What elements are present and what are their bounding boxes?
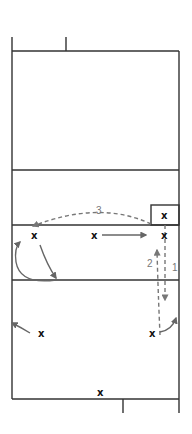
movement-arrows [12,235,176,333]
left-front-loop-arrow [16,242,57,281]
player-setter: x [161,210,168,221]
player-middle-front: x [91,230,98,241]
players: x x x x x x x [31,210,168,398]
right-back-arrow [160,318,176,332]
pass-3-arrow [33,212,151,226]
player-right-back: x [149,328,156,339]
court-lines [12,37,179,413]
player-server: x [97,387,104,398]
pass-1-label: 1 [172,262,178,273]
player-left-front: x [31,230,38,241]
left-front-down-arrow [40,245,56,278]
left-back-arrow [12,323,30,333]
court-diagram: x x x x x x x 3 2 1 [0,0,192,434]
player-right-front: x [161,230,168,241]
player-left-back: x [38,328,45,339]
pass-2-label: 2 [147,258,153,269]
pass-3-label: 3 [96,205,102,216]
pass-2-arrow [157,250,160,335]
